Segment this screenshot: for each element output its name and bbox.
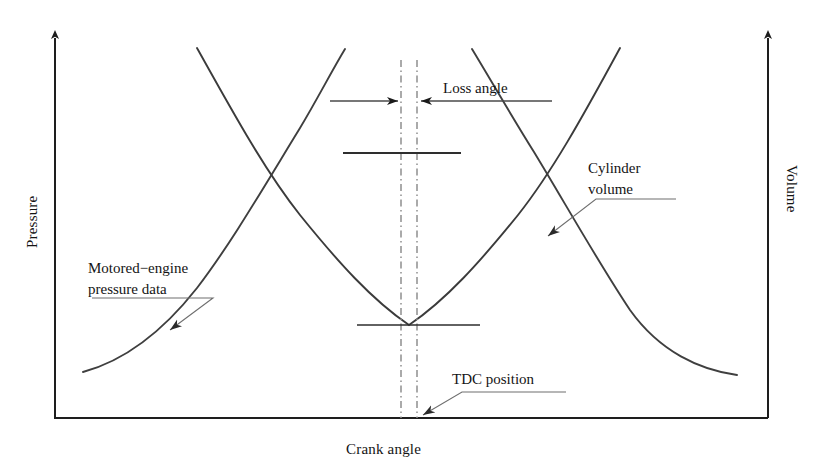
pressure-curve-right-branch — [472, 49, 737, 375]
tangent-lines-group — [343, 153, 480, 325]
annotation-cylinder-volume: Cylinder volume — [588, 158, 641, 200]
x-axis-label: Crank angle — [346, 441, 421, 458]
annotation-tdc-position: TDC position — [452, 370, 534, 389]
y-axis-left-label: Pressure — [24, 196, 41, 248]
annotation-loss-angle: Loss angle — [443, 79, 508, 98]
annotation-cylinder-volume-line2: volume — [588, 179, 641, 200]
pressure-curve-left-branch — [83, 49, 345, 372]
pressure-curve-group — [83, 49, 737, 375]
annotation-cylinder-volume-line1: Cylinder — [588, 160, 641, 176]
leader-line-motored-pressure — [92, 298, 213, 330]
volume-curve-group — [197, 48, 620, 325]
guide-lines-group — [401, 60, 417, 418]
annotation-motored-engine-pressure-data: Motored−engine pressure data — [88, 258, 188, 300]
annotation-motored-line1: Motored−engine — [88, 260, 188, 276]
axis-group — [54, 38, 768, 418]
leader-line-tdc-position — [423, 392, 566, 415]
y-axis-right-label: Volume — [783, 165, 800, 213]
annotation-motored-line2: pressure data — [88, 279, 188, 300]
engine-pressure-volume-diagram: Pressure Volume Crank angle Loss angle C… — [0, 0, 818, 475]
leader-line-cylinder-volume — [548, 199, 676, 236]
diagram-canvas — [0, 0, 818, 475]
cylinder-volume-curve — [197, 48, 620, 325]
